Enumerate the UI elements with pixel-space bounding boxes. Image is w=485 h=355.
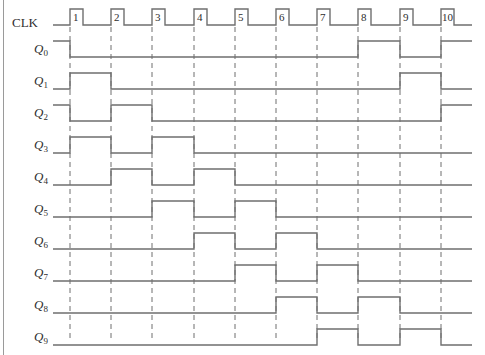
signal-label: Q0 bbox=[34, 41, 48, 58]
clock-pulse-number: 5 bbox=[238, 11, 244, 23]
signal-row-q9: Q9 bbox=[34, 329, 472, 346]
signal-waveform bbox=[53, 201, 472, 217]
signal-waveform bbox=[53, 233, 472, 249]
clock-pulse-number: 9 bbox=[403, 11, 409, 23]
signal-row-q7: Q7 bbox=[34, 265, 472, 282]
signal-label: Q4 bbox=[34, 169, 48, 186]
clock-pulse-number: 10 bbox=[442, 11, 454, 23]
signal-label: Q8 bbox=[34, 297, 48, 314]
signal-row-q8: Q8 bbox=[34, 297, 472, 314]
clock-pulse-numbers: 12345678910 bbox=[73, 11, 454, 23]
clock-pulse-number: 8 bbox=[361, 11, 367, 23]
signal-row-q1: Q1 bbox=[34, 73, 472, 90]
clock-edge-guides bbox=[70, 27, 441, 340]
signal-label: Q2 bbox=[34, 105, 48, 122]
signal-waveform bbox=[53, 73, 472, 89]
signal-waveform bbox=[53, 41, 472, 57]
clock-label: CLK bbox=[12, 15, 39, 30]
signal-row-q3: Q3 bbox=[34, 137, 472, 154]
clock-pulse-number: 3 bbox=[155, 11, 161, 23]
clock-pulse-number: 1 bbox=[73, 11, 79, 23]
signal-label: Q9 bbox=[34, 329, 48, 346]
signal-row-q6: Q6 bbox=[34, 233, 472, 250]
signal-waveform bbox=[53, 265, 472, 281]
signal-row-q2: Q2 bbox=[34, 105, 472, 122]
clock-pulse-number: 4 bbox=[197, 11, 203, 23]
signal-waveform bbox=[53, 105, 472, 121]
timing-diagram: CLK 12345678910 Q0Q1Q2Q3Q4Q5Q6Q7Q8Q9 bbox=[0, 0, 485, 355]
signal-label: Q1 bbox=[34, 73, 48, 90]
clock-pulse-number: 7 bbox=[320, 11, 326, 23]
signal-row-q0: Q0 bbox=[34, 41, 472, 58]
clock-pulse-number: 2 bbox=[114, 11, 120, 23]
signal-waveform bbox=[53, 137, 472, 153]
signal-waveform bbox=[53, 329, 472, 345]
signal-waveform bbox=[53, 169, 472, 185]
clock-pulse-number: 6 bbox=[279, 11, 285, 23]
signal-label: Q7 bbox=[34, 265, 48, 282]
signal-label: Q5 bbox=[34, 201, 48, 218]
clock-row: CLK 12345678910 bbox=[12, 9, 472, 30]
signal-row-q4: Q4 bbox=[34, 169, 472, 186]
signal-rows: Q0Q1Q2Q3Q4Q5Q6Q7Q8Q9 bbox=[34, 41, 472, 346]
signal-row-q5: Q5 bbox=[34, 201, 472, 218]
signal-label: Q6 bbox=[34, 233, 48, 250]
signal-waveform bbox=[53, 297, 472, 313]
signal-label: Q3 bbox=[34, 137, 48, 154]
